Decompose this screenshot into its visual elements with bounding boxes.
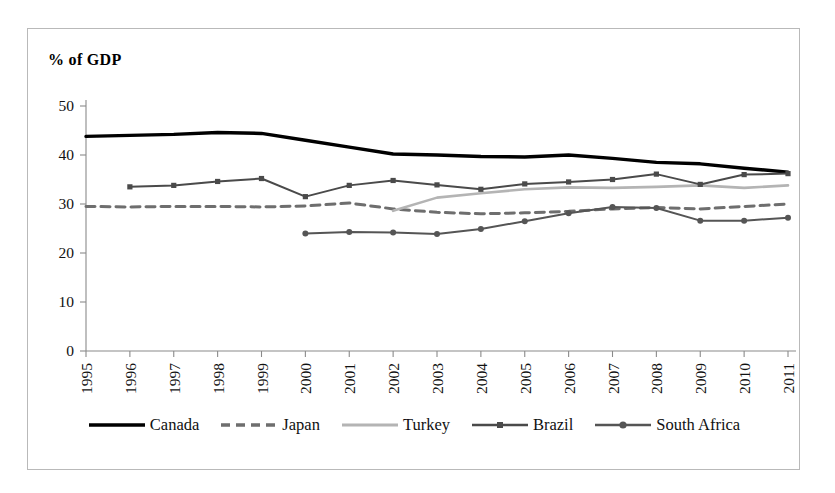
data-point-marker	[697, 218, 703, 224]
data-point-marker	[303, 194, 308, 199]
data-point-marker	[434, 182, 439, 187]
data-point-marker	[522, 218, 528, 224]
legend-item-turkey[interactable]: Turkey	[342, 415, 450, 435]
data-point-marker	[654, 172, 659, 177]
legend-item-canada[interactable]: Canada	[89, 415, 199, 435]
legend-label: Japan	[282, 415, 320, 435]
x-tick-label: 2003	[429, 363, 446, 394]
data-point-marker	[741, 218, 747, 224]
legend-label: South Africa	[656, 415, 740, 435]
legend-marker	[620, 421, 627, 428]
x-tick-label: 2000	[297, 363, 314, 394]
x-tick-label: 2001	[341, 363, 358, 394]
x-tick-label: 1999	[254, 363, 271, 394]
data-point-marker	[610, 204, 616, 210]
series-line	[86, 203, 788, 214]
data-point-marker	[566, 210, 572, 216]
legend-swatch	[472, 418, 528, 432]
data-point-marker	[391, 178, 396, 183]
series-line	[86, 132, 788, 172]
data-point-marker	[215, 179, 220, 184]
x-tick-label: 2008	[648, 363, 665, 394]
data-point-marker	[302, 230, 308, 236]
data-point-marker	[785, 171, 790, 176]
legend-swatch	[342, 418, 398, 432]
legend-label: Turkey	[403, 415, 450, 435]
data-point-marker	[478, 187, 483, 192]
data-point-marker	[347, 183, 352, 188]
data-point-marker	[478, 226, 484, 232]
y-axis-labels: 50403020100	[59, 97, 75, 359]
series-canada	[86, 132, 788, 172]
data-point-marker	[434, 231, 440, 237]
series-japan	[86, 203, 788, 214]
x-tick-label: 2010	[736, 363, 753, 394]
chart-figure: % of GDP 1995199619971998199920002001200…	[27, 28, 800, 470]
legend-swatch	[89, 418, 145, 432]
data-series-group	[86, 132, 791, 236]
legend-marker	[497, 422, 503, 428]
y-tick-label: 20	[59, 244, 75, 261]
x-tick-label: 2005	[517, 363, 534, 394]
data-point-marker	[346, 229, 352, 235]
x-tick-label: 2009	[692, 363, 709, 394]
x-tick-label: 2002	[385, 363, 402, 394]
legend-swatch	[595, 418, 651, 432]
legend-item-brazil[interactable]: Brazil	[472, 415, 573, 435]
data-point-marker	[566, 179, 571, 184]
data-point-marker	[522, 181, 527, 186]
x-tick-label: 2011	[780, 363, 797, 393]
y-tick-label: 10	[59, 293, 75, 310]
legend-label: Brazil	[533, 415, 573, 435]
legend-item-south-africa[interactable]: South Africa	[595, 415, 740, 435]
data-point-marker	[610, 177, 615, 182]
plot-area: 1995199619971998199920002001200220032004…	[28, 29, 801, 471]
x-axis-ticks	[86, 351, 788, 357]
y-tick-label: 50	[59, 97, 75, 114]
data-point-marker	[390, 229, 396, 235]
data-point-marker	[127, 184, 132, 189]
legend-swatch	[221, 418, 277, 432]
data-point-marker	[698, 182, 703, 187]
x-tick-label: 2006	[561, 363, 578, 394]
line-chart-svg: 1995199619971998199920002001200220032004…	[28, 29, 801, 471]
y-tick-label: 0	[66, 342, 74, 359]
data-point-marker	[742, 172, 747, 177]
data-point-marker	[171, 183, 176, 188]
y-axis-ticks	[80, 106, 86, 351]
x-axis-labels: 1995199619971998199920002001200220032004…	[78, 363, 797, 394]
y-tick-label: 30	[59, 195, 75, 212]
data-point-marker	[653, 205, 659, 211]
x-tick-label: 2007	[605, 363, 622, 394]
x-tick-label: 1998	[210, 363, 227, 394]
chart-legend: CanadaJapanTurkeyBrazilSouth Africa	[28, 415, 801, 435]
series-line	[305, 207, 788, 234]
x-tick-label: 1996	[122, 363, 139, 394]
x-tick-label: 2004	[473, 363, 490, 394]
data-point-marker	[785, 215, 791, 221]
data-point-marker	[259, 176, 264, 181]
y-tick-label: 40	[59, 146, 75, 163]
x-tick-label: 1997	[166, 363, 183, 394]
legend-item-japan[interactable]: Japan	[221, 415, 320, 435]
legend-label: Canada	[150, 415, 199, 435]
x-tick-label: 1995	[78, 363, 95, 394]
